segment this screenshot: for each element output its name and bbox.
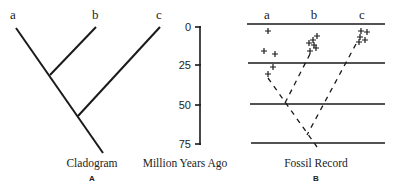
taxon-a-label: a xyxy=(10,7,16,22)
fossil-record: a b c xyxy=(247,7,385,183)
fossil-taxon-a-label: a xyxy=(264,7,270,22)
cladogram: a b c Cladogram A xyxy=(10,7,162,183)
panel-a-letter: A xyxy=(89,174,95,183)
fossils-a xyxy=(261,28,278,77)
branch-c xyxy=(78,27,160,116)
diagram-canvas: a b c Cladogram A 0 25 50 75 Million Yea… xyxy=(0,0,398,189)
tick-label-50: 50 xyxy=(179,99,191,111)
fossil-taxon-b-label: b xyxy=(311,7,318,22)
fossil-taxon-c-label: c xyxy=(359,7,365,22)
cladogram-caption: Cladogram xyxy=(66,157,117,170)
lineage-a-dashed xyxy=(268,78,317,147)
trunk-branch-a xyxy=(16,28,103,153)
axis-title: Million Years Ago xyxy=(143,157,228,170)
fossils-b xyxy=(306,33,320,54)
branch-b xyxy=(50,27,96,75)
tick-label-25: 25 xyxy=(179,59,191,71)
lineage-c-dashed xyxy=(307,44,356,135)
tick-label-75: 75 xyxy=(179,138,191,150)
panel-b-letter: B xyxy=(313,174,319,183)
fossil-caption: Fossil Record xyxy=(284,157,348,169)
fossils-c xyxy=(356,28,370,45)
lineage-b-dashed xyxy=(285,54,310,103)
time-axis: 0 25 50 75 Million Years Ago xyxy=(143,21,228,170)
tick-label-0: 0 xyxy=(185,21,191,33)
taxon-b-label: b xyxy=(92,7,99,22)
taxon-c-label: c xyxy=(156,7,162,22)
